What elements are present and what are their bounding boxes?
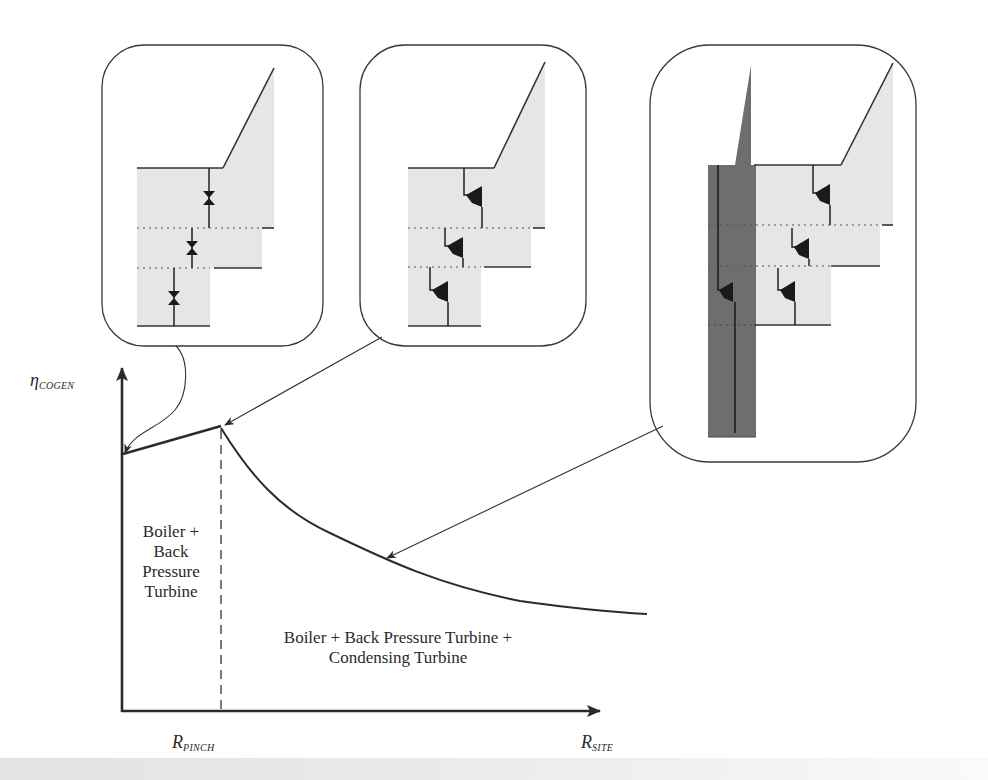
condensing-spike: [735, 65, 751, 165]
efficiency-curve-falling: [221, 428, 647, 614]
callout-panel-back-pressure: [360, 45, 586, 346]
scan-edge-strip: [0, 758, 988, 780]
x-axis-label: RSITE: [581, 732, 613, 753]
callout-panel-condensing: [650, 45, 916, 462]
efficiency-curve-rising: [123, 426, 221, 454]
region-label-condensing: Boiler + Back Pressure Turbine + Condens…: [248, 628, 548, 668]
callout-panel-valves: [102, 45, 323, 346]
region-label-back-pressure: Boiler + Back Pressure Turbine: [128, 522, 214, 602]
callout-pointer-valves: [125, 346, 186, 453]
callout-pointer-condensing: [387, 426, 663, 558]
y-axis-label: ηCOGEN: [30, 370, 74, 391]
x-tick-label-pinch: RPINCH: [172, 732, 215, 753]
callout-pointer-back-pressure: [225, 337, 382, 425]
